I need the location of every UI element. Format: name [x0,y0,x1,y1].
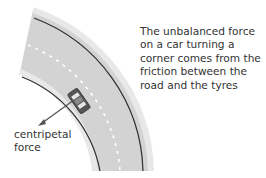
centripetal-force-label: centripetal force [14,128,71,155]
force-label-line2: force [14,141,71,154]
force-label-line1: centripetal [14,128,71,141]
centripetal-force-arrow [38,100,74,126]
caption-text: The unbalanced force on a car turning a … [140,25,266,92]
